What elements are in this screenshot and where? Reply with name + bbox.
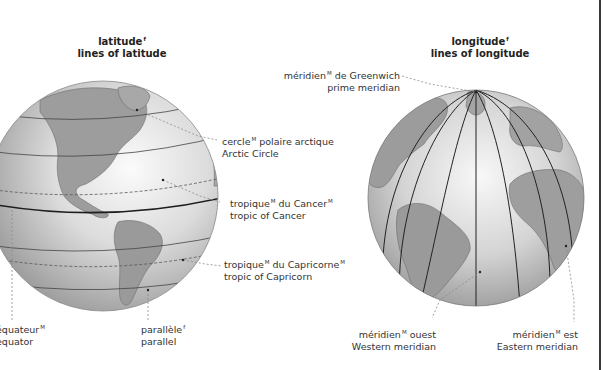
gender-mark: f bbox=[183, 324, 185, 330]
label-fr: méridien bbox=[284, 70, 326, 81]
label-fr: tropique bbox=[230, 198, 270, 209]
label-prime-meridian: méridienM de Greenwich prime meridian bbox=[266, 67, 400, 94]
latitude-title-fr: latitude bbox=[98, 36, 142, 47]
label-en: tropic of Cancer bbox=[230, 210, 333, 222]
gender-mark: M bbox=[40, 324, 45, 330]
label-equator: équateurM equator bbox=[0, 321, 45, 348]
label-en: prime meridian bbox=[266, 82, 400, 94]
label-fr-rest: du Cancer bbox=[276, 198, 328, 209]
label-fr: équateur bbox=[0, 324, 39, 335]
label-fr-rest: est bbox=[560, 329, 578, 340]
label-en: Arctic Circle bbox=[222, 148, 334, 160]
label-en: equator bbox=[0, 336, 45, 348]
gender-mark: f bbox=[506, 36, 508, 42]
latitude-globe bbox=[0, 81, 230, 311]
label-en: tropic of Capricorn bbox=[224, 271, 345, 283]
gender-mark: M bbox=[328, 198, 333, 204]
longitude-title-fr: longitude bbox=[451, 36, 505, 47]
gender-mark: M bbox=[340, 259, 345, 265]
label-en: Eastern meridian bbox=[490, 341, 578, 353]
label-en: Western meridian bbox=[346, 341, 436, 353]
label-fr: cercle bbox=[222, 136, 250, 147]
label-en: parallel bbox=[141, 336, 185, 348]
label-arctic-circle: cercleM polaire arctique Arctic Circle bbox=[222, 133, 334, 160]
label-fr-rest: polaire arctique bbox=[256, 136, 334, 147]
panel-border bbox=[599, 0, 601, 370]
label-fr-rest: ouest bbox=[407, 329, 436, 340]
longitude-title-en: lines of longitude bbox=[410, 48, 550, 60]
gender-mark: f bbox=[143, 36, 145, 42]
label-fr: parallèle bbox=[141, 324, 182, 335]
label-fr-rest: du Capricorne bbox=[270, 259, 340, 270]
latitude-title: latitudef lines of latitude bbox=[62, 33, 182, 60]
label-fr: tropique bbox=[224, 259, 264, 270]
longitude-title: longitudef lines of longitude bbox=[410, 33, 550, 60]
label-parallel: parallèlef parallel bbox=[141, 321, 185, 348]
label-tropic-of-capricorn: tropiqueM du CapricorneM tropic of Capri… bbox=[224, 256, 345, 283]
label-fr: méridien bbox=[513, 329, 555, 340]
longitude-globe bbox=[366, 90, 586, 306]
label-western-meridian: méridienM ouest Western meridian bbox=[346, 326, 436, 353]
label-tropic-of-cancer: tropiqueM du CancerM tropic of Cancer bbox=[230, 195, 333, 222]
latitude-title-en: lines of latitude bbox=[62, 48, 182, 60]
label-fr: méridien bbox=[359, 329, 401, 340]
label-eastern-meridian: méridienM est Eastern meridian bbox=[490, 326, 578, 353]
label-fr-rest: de Greenwich bbox=[332, 70, 400, 81]
